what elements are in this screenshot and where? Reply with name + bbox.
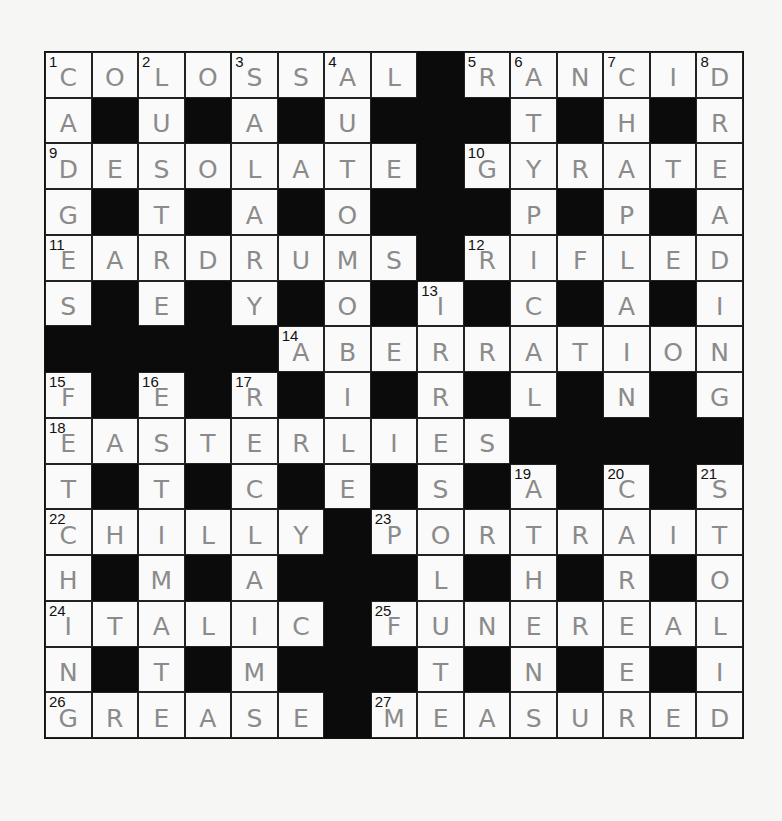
grid-cell[interactable]: A [650, 601, 697, 647]
grid-cell[interactable]: H [92, 509, 139, 555]
grid-cell[interactable]: R [557, 143, 604, 189]
grid-cell[interactable]: R [92, 692, 139, 738]
grid-cell[interactable]: A [185, 692, 232, 738]
grid-cell[interactable]: H [603, 98, 650, 144]
grid-cell[interactable]: M [138, 555, 185, 601]
grid-cell[interactable]: I [650, 52, 697, 98]
grid-cell[interactable]: R [464, 509, 511, 555]
grid-cell[interactable]: E [371, 143, 418, 189]
grid-cell[interactable]: T [324, 143, 371, 189]
grid-cell[interactable]: 27M [371, 692, 418, 738]
grid-cell[interactable]: 21S [696, 464, 743, 510]
grid-cell[interactable]: D [185, 235, 232, 281]
grid-cell[interactable]: Y [231, 281, 278, 327]
grid-cell[interactable]: G [696, 372, 743, 418]
grid-cell[interactable]: T [510, 98, 557, 144]
grid-cell[interactable]: R [603, 692, 650, 738]
grid-cell[interactable]: U [557, 692, 604, 738]
grid-cell[interactable]: 9D [45, 143, 92, 189]
grid-cell[interactable]: 3S [231, 52, 278, 98]
grid-cell[interactable]: C [510, 281, 557, 327]
grid-cell[interactable]: T [45, 464, 92, 510]
grid-cell[interactable]: U [278, 235, 325, 281]
grid-cell[interactable]: O [185, 52, 232, 98]
grid-cell[interactable]: R [557, 601, 604, 647]
grid-cell[interactable]: T [650, 143, 697, 189]
grid-cell[interactable]: O [650, 326, 697, 372]
grid-cell[interactable]: L [185, 601, 232, 647]
grid-cell[interactable]: O [324, 189, 371, 235]
grid-cell[interactable]: O [696, 555, 743, 601]
grid-cell[interactable]: A [231, 98, 278, 144]
grid-cell[interactable]: 2L [138, 52, 185, 98]
grid-cell[interactable]: A [92, 418, 139, 464]
grid-cell[interactable]: U [138, 98, 185, 144]
grid-cell[interactable]: T [185, 418, 232, 464]
grid-cell[interactable]: R [417, 326, 464, 372]
grid-cell[interactable]: A [464, 692, 511, 738]
grid-cell[interactable]: I [231, 601, 278, 647]
grid-cell[interactable]: E [510, 601, 557, 647]
grid-cell[interactable]: L [510, 372, 557, 418]
grid-cell[interactable]: D [696, 235, 743, 281]
grid-cell[interactable]: E [138, 281, 185, 327]
grid-cell[interactable]: Y [510, 143, 557, 189]
grid-cell[interactable]: T [138, 647, 185, 693]
grid-cell[interactable]: H [45, 555, 92, 601]
grid-cell[interactable]: 15F [45, 372, 92, 418]
grid-cell[interactable]: S [510, 692, 557, 738]
grid-cell[interactable]: T [510, 509, 557, 555]
grid-cell[interactable]: L [603, 235, 650, 281]
grid-cell[interactable]: S [417, 464, 464, 510]
grid-cell[interactable]: E [650, 235, 697, 281]
grid-cell[interactable]: I [324, 372, 371, 418]
grid-cell[interactable]: U [417, 601, 464, 647]
grid-cell[interactable]: S [371, 235, 418, 281]
grid-cell[interactable]: M [324, 235, 371, 281]
grid-cell[interactable]: C [231, 464, 278, 510]
grid-cell[interactable]: 12R [464, 235, 511, 281]
grid-cell[interactable]: A [696, 189, 743, 235]
grid-cell[interactable]: I [138, 509, 185, 555]
grid-cell[interactable]: I [696, 281, 743, 327]
grid-cell[interactable]: R [696, 98, 743, 144]
grid-cell[interactable]: 1C [45, 52, 92, 98]
grid-cell[interactable]: T [696, 509, 743, 555]
grid-cell[interactable]: B [324, 326, 371, 372]
grid-cell[interactable]: S [231, 692, 278, 738]
grid-cell[interactable]: N [510, 647, 557, 693]
grid-cell[interactable]: I [603, 326, 650, 372]
grid-cell[interactable]: R [417, 372, 464, 418]
grid-cell[interactable]: U [324, 98, 371, 144]
grid-cell[interactable]: M [231, 647, 278, 693]
grid-cell[interactable]: S [138, 143, 185, 189]
grid-cell[interactable]: L [185, 509, 232, 555]
grid-cell[interactable]: E [371, 326, 418, 372]
grid-cell[interactable]: L [231, 509, 278, 555]
grid-cell[interactable]: C [278, 601, 325, 647]
grid-cell[interactable]: A [603, 281, 650, 327]
grid-cell[interactable]: R [557, 509, 604, 555]
grid-cell[interactable]: L [231, 143, 278, 189]
grid-cell[interactable]: E [92, 143, 139, 189]
grid-cell[interactable]: T [138, 464, 185, 510]
grid-cell[interactable]: 11E [45, 235, 92, 281]
grid-cell[interactable]: O [417, 509, 464, 555]
grid-cell[interactable]: A [92, 235, 139, 281]
grid-cell[interactable]: 5R [464, 52, 511, 98]
grid-cell[interactable]: I [510, 235, 557, 281]
grid-cell[interactable]: O [324, 281, 371, 327]
grid-cell[interactable]: L [417, 555, 464, 601]
grid-cell[interactable]: S [138, 418, 185, 464]
grid-cell[interactable]: 13I [417, 281, 464, 327]
grid-cell[interactable]: A [138, 601, 185, 647]
grid-cell[interactable]: 25F [371, 601, 418, 647]
grid-cell[interactable]: E [603, 647, 650, 693]
grid-cell[interactable]: I [371, 418, 418, 464]
grid-cell[interactable]: T [138, 189, 185, 235]
grid-cell[interactable]: 10G [464, 143, 511, 189]
grid-cell[interactable]: 7C [603, 52, 650, 98]
grid-cell[interactable]: N [557, 52, 604, 98]
grid-cell[interactable]: I [650, 509, 697, 555]
grid-cell[interactable]: T [92, 601, 139, 647]
